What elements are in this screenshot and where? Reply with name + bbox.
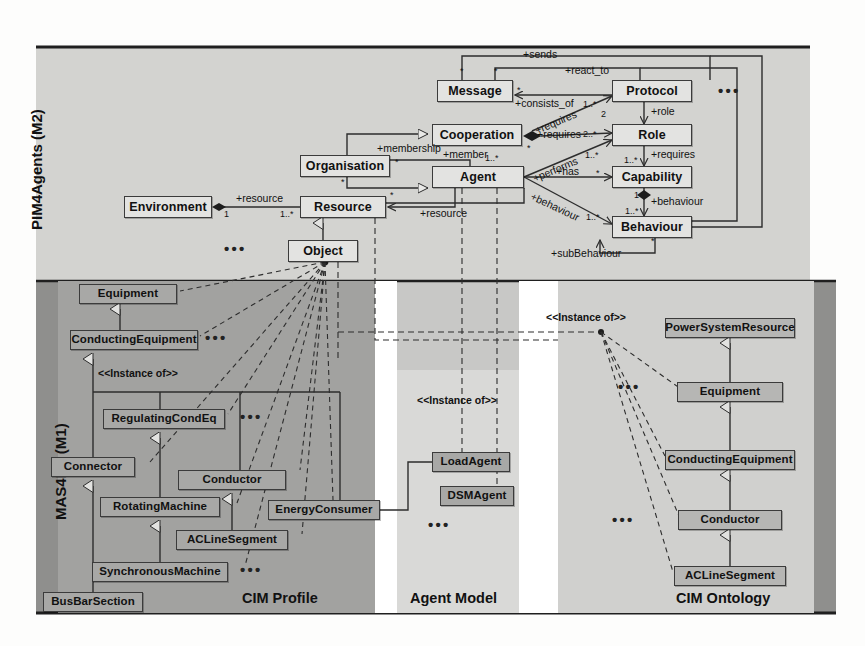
assoc-label-react-to: +react_to: [565, 64, 609, 76]
stereotype-instance-of-cim-ontology: <<Instance of>>: [546, 311, 626, 323]
assoc-label-role: +role: [651, 105, 675, 117]
multiplicity-behaviour-star: *: [651, 236, 655, 246]
panel-title-agent-model: Agent Model: [410, 590, 497, 606]
multiplicity-capability-one: 1: [634, 190, 639, 200]
class-box-cim-conducting-equipment[interactable]: ConductingEquipment: [70, 330, 198, 350]
stereotype-instance-of-agent-model: <<Instance of>>: [417, 394, 497, 406]
multiplicity-behaviour-b: 1..*: [586, 212, 600, 222]
class-box-cim-acline-segment[interactable]: ACLineSegment: [176, 530, 288, 550]
multiplicity-env: 1: [224, 209, 229, 219]
multiplicity-message-c: *: [517, 85, 521, 95]
class-box-onto-equipment[interactable]: Equipment: [677, 382, 783, 402]
stereotype-instance-of-cim-profile: <<Instance of>>: [98, 367, 178, 379]
ellipsis-synchronous-machine: •••: [240, 561, 262, 578]
multiplicity-message-b: *: [494, 66, 498, 76]
ellipsis-conducting-equipment: •••: [205, 329, 227, 346]
class-box-object[interactable]: Object: [288, 240, 358, 262]
class-box-resource[interactable]: Resource: [300, 196, 386, 218]
class-box-cim-equipment[interactable]: Equipment: [79, 284, 177, 304]
assoc-label-subbehaviour: +subBehaviour: [551, 247, 621, 259]
assoc-label-membership: +membership: [377, 142, 441, 154]
class-box-agent[interactable]: Agent: [432, 166, 524, 188]
ellipsis-m2-object: •••: [224, 240, 246, 257]
multiplicity-protocol-requires: 1..*: [583, 99, 597, 109]
multiplicity-resource: 1..*: [280, 209, 294, 219]
ellipsis-onto-top: •••: [618, 378, 640, 395]
class-box-cim-conductor[interactable]: Conductor: [178, 470, 286, 490]
assoc-label-requires-role: +requires: [537, 128, 581, 140]
class-box-message[interactable]: Message: [437, 80, 513, 102]
ellipsis-m2-right: •••: [718, 82, 740, 99]
class-box-organisation[interactable]: Organisation: [300, 155, 390, 177]
assoc-label-requires-capability: +requires: [651, 148, 695, 160]
class-box-dsm-agent[interactable]: DSMAgent: [440, 486, 514, 506]
multiplicity-organisation-b: *: [341, 177, 345, 187]
class-box-onto-conducting-equipment[interactable]: ConductingEquipment: [665, 450, 795, 470]
class-box-cim-rotating-machine[interactable]: RotatingMachine: [100, 497, 220, 517]
class-box-cim-regulating-condeq[interactable]: RegulatingCondEq: [103, 409, 225, 429]
class-box-cim-busbar-section[interactable]: BusBarSection: [43, 592, 143, 612]
assoc-label-member: +member: [443, 148, 488, 160]
class-box-protocol[interactable]: Protocol: [612, 80, 692, 102]
class-box-cim-synchronous-machine[interactable]: SynchronousMachine: [92, 562, 228, 582]
multiplicity-behaviour-a: 1..*: [625, 206, 639, 216]
panel-title-cim-profile: CIM Profile: [242, 590, 318, 606]
class-box-environment[interactable]: Environment: [124, 196, 212, 218]
assoc-label-resource-agent: +resource: [420, 207, 467, 219]
class-box-capability[interactable]: Capability: [612, 166, 692, 188]
multiplicity-role-requires: 2..*: [583, 129, 597, 139]
assoc-label-has: +has: [556, 165, 579, 177]
layer-label-m2: PIM4Agents (M2): [28, 109, 45, 230]
panel-title-cim-ontology: CIM Ontology: [676, 590, 770, 606]
multiplicity-cooperation: *: [527, 143, 531, 153]
multiplicity-message-a: *: [460, 66, 464, 76]
assoc-label-sends: +sends: [523, 48, 557, 60]
multiplicity-resource-star: *: [390, 190, 394, 200]
multiplicity-capability-requires: 1..*: [624, 155, 638, 165]
assoc-label-resource-environment: +resource: [236, 192, 283, 204]
class-box-cim-connector[interactable]: Connector: [51, 457, 135, 477]
class-box-cooperation[interactable]: Cooperation: [432, 124, 522, 146]
class-box-load-agent[interactable]: LoadAgent: [432, 452, 510, 472]
multiplicity-role-performs: 1..*: [585, 150, 599, 160]
multiplicity-agent: 1..*: [485, 153, 499, 163]
multiplicity-role-count: 2: [601, 109, 606, 119]
class-box-onto-acline-segment[interactable]: ACLineSegment: [674, 566, 786, 586]
diagram-canvas: PIM4Agents (M2) MAS4ES (M1) Environment …: [0, 0, 865, 646]
assoc-label-behaviour-aggregation: +behaviour: [651, 195, 703, 207]
class-box-onto-power-system-resource[interactable]: PowerSystemResource: [665, 318, 795, 338]
class-box-onto-conductor[interactable]: Conductor: [678, 510, 782, 530]
multiplicity-capability-has: *: [596, 168, 600, 178]
class-box-cim-energy-consumer[interactable]: EnergyConsumer: [268, 500, 380, 520]
ellipsis-onto-bottom: •••: [612, 511, 634, 528]
ellipsis-regulating-condeq: •••: [240, 408, 262, 425]
ellipsis-agent-model: •••: [428, 516, 450, 533]
multiplicity-organisation-a: *: [395, 157, 399, 167]
class-box-role[interactable]: Role: [612, 124, 692, 146]
class-box-behaviour[interactable]: Behaviour: [612, 216, 692, 238]
assoc-label-consists-of: +consists_of: [515, 97, 574, 109]
